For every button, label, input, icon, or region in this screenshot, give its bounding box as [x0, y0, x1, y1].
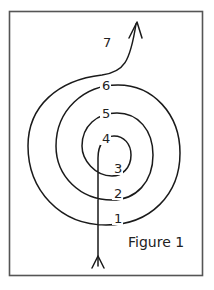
- turn-label-3: 3: [114, 161, 122, 176]
- figure-caption: Figure 1: [128, 234, 184, 250]
- turn-label-7: 7: [103, 35, 111, 50]
- turn-label-1: 1: [114, 211, 122, 226]
- turn-label-5: 5: [102, 106, 110, 121]
- turn-labels: 1234567: [100, 35, 123, 226]
- turn-label-4: 4: [102, 131, 110, 146]
- spiral-figure: 1234567 Figure 1: [0, 0, 214, 290]
- turn-label-6: 6: [102, 78, 110, 93]
- turn-label-2: 2: [114, 186, 122, 201]
